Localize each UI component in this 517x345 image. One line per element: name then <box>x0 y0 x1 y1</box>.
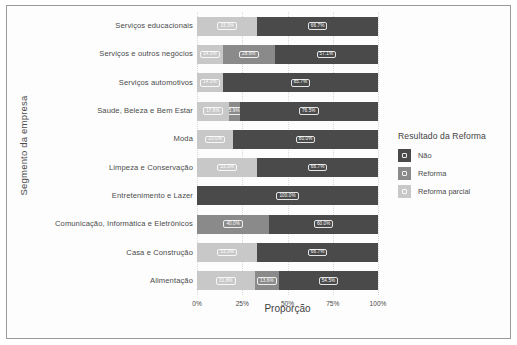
legend-item[interactable]: Reforma parcial <box>398 185 510 198</box>
legend-label: Não <box>418 151 432 160</box>
legend-label: Reforma <box>418 169 446 178</box>
y-tick-label: Entretenimento e Lazer <box>33 191 193 200</box>
bar-segment: 33.3% <box>197 158 257 177</box>
bar-segment-label: 66.7% <box>308 249 328 257</box>
y-tick-label: Limpeza e Conservação <box>33 163 193 172</box>
bar-segment-label: 60.0% <box>314 220 334 228</box>
stacked-bar: 31.8%13.6%54.5% <box>197 271 378 290</box>
plot-area: Serviços educacionais33.3%66.7%Serviços … <box>197 12 378 295</box>
bar-segment-label: 28.6% <box>239 51 259 59</box>
bar-segment-label: 76.5% <box>299 107 319 115</box>
bar-segment-label: 100.0% <box>276 192 298 200</box>
stacked-bar: 14.3%85.7% <box>197 73 378 92</box>
bar-segment-label: 13.6% <box>257 277 277 285</box>
x-axis-title: Proporção <box>197 303 378 314</box>
stacked-bar: 20.0%80.0% <box>197 130 378 149</box>
bar-segment: 40.0% <box>197 215 269 234</box>
bar-segment-label: 33.3% <box>217 164 237 172</box>
stacked-bar: 40.0%60.0% <box>197 215 378 234</box>
y-tick-label: Serviços automotivos <box>33 78 193 87</box>
bar-segment-label: 40.0% <box>223 220 243 228</box>
y-tick-label: Serviços educacionais <box>33 21 193 30</box>
bar-segment: 13.6% <box>255 271 280 290</box>
bar-segment: 20.0% <box>197 130 233 149</box>
bar-segment: 17.6% <box>197 102 229 121</box>
bar-segment-label: 80.0% <box>296 136 316 144</box>
bar-segment: 33.3% <box>197 243 257 262</box>
stacked-bar: 33.3%66.7% <box>197 17 378 36</box>
y-tick-label: Comunicação, Informática e Eletrônicos <box>33 219 193 228</box>
stacked-bar: 17.6%5.9%76.5% <box>197 102 378 121</box>
legend-swatch <box>398 149 411 162</box>
bar-segment: 66.7% <box>257 243 378 262</box>
bar-segment-label: 66.7% <box>308 164 328 172</box>
bar-segment: 33.3% <box>197 17 257 36</box>
bar-segment: 28.6% <box>223 45 275 64</box>
bar-segment-label: 54.5% <box>319 277 339 285</box>
bar-segment-label: 17.6% <box>203 107 223 115</box>
stacked-bar: 100.0% <box>197 186 378 205</box>
bar-segment-label: 14.3% <box>200 79 220 87</box>
stacked-bar: 33.3%66.7% <box>197 158 378 177</box>
bar-segment: 80.0% <box>233 130 378 149</box>
bar-segment: 57.1% <box>275 45 378 64</box>
stacked-bar: 33.3%66.7% <box>197 243 378 262</box>
legend-item[interactable]: Reforma <box>398 167 510 180</box>
bar-segment: 60.0% <box>269 215 378 234</box>
legend-swatch <box>398 185 411 198</box>
chart-figure: Segmento da empresa Serviços educacionai… <box>0 0 517 345</box>
bar-segment: 31.8% <box>197 271 255 290</box>
y-axis-title: Segmento da empresa <box>18 61 29 231</box>
bar-segment-label: 57.1% <box>317 51 337 59</box>
bar-segment: 54.5% <box>279 271 378 290</box>
bar-segment: 100.0% <box>197 186 378 205</box>
bar-segment: 76.5% <box>240 102 378 121</box>
bar-segment-label: 66.7% <box>308 22 328 30</box>
legend-swatch <box>398 167 411 180</box>
bar-segment-label: 33.3% <box>217 249 237 257</box>
bar-segment-label: 85.7% <box>291 79 311 87</box>
bar-segment-label: 31.8% <box>216 277 236 285</box>
bar-segment-label: 20.0% <box>205 136 225 144</box>
bar-segment: 5.9% <box>229 102 240 121</box>
bar-segment-label: 14.3% <box>200 51 220 59</box>
bar-segment: 66.7% <box>257 158 378 177</box>
stacked-bar: 14.3%28.6%57.1% <box>197 45 378 64</box>
bar-segment: 14.3% <box>197 73 223 92</box>
bar-segment: 14.3% <box>197 45 223 64</box>
legend: Resultado da Reforma NãoReformaReforma p… <box>398 131 510 203</box>
legend-item[interactable]: Não <box>398 149 510 162</box>
bar-segment-label: 5.9% <box>229 107 240 115</box>
y-tick-label: Alimentação <box>33 276 193 285</box>
y-tick-label: Moda <box>33 134 193 143</box>
y-tick-label: Serviços e outros negócios <box>33 49 193 58</box>
gridline <box>378 12 379 295</box>
y-tick-label: Saude, Beleza e Bem Estar <box>33 106 193 115</box>
y-tick-label: Casa e Construção <box>33 248 193 257</box>
bar-segment: 66.7% <box>257 17 378 36</box>
legend-label: Reforma parcial <box>418 187 470 196</box>
legend-items: NãoReformaReforma parcial <box>398 149 510 198</box>
bar-segment: 85.7% <box>223 73 378 92</box>
legend-title: Resultado da Reforma <box>398 131 510 141</box>
bar-segment-label: 33.3% <box>217 22 237 30</box>
